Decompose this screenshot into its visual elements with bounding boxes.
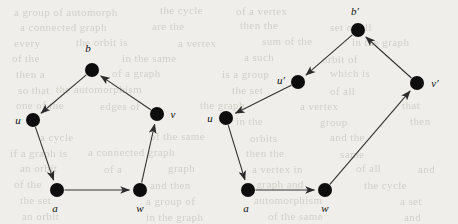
node-u — [26, 113, 40, 127]
node-bp — [351, 23, 365, 37]
node-label-v: v — [171, 108, 176, 120]
node-w — [318, 183, 332, 197]
edge-w-to-vp — [330, 91, 410, 184]
node-vp — [410, 76, 424, 90]
node-up — [291, 75, 305, 89]
figure-canvas: a group of automorphthe cycleof a vertex… — [0, 0, 458, 224]
edge-b-to-u — [41, 75, 86, 113]
node-label-w: w — [136, 202, 143, 214]
edge-up-to-u — [235, 85, 291, 113]
node-u — [219, 111, 233, 125]
edge-bp-to-up — [306, 35, 352, 75]
node-label-a: a — [52, 202, 58, 214]
node-label-bp: b′ — [351, 5, 359, 17]
node-v — [150, 107, 164, 121]
node-b — [85, 63, 99, 77]
node-label-w: w — [321, 202, 328, 214]
node-label-u: u — [15, 114, 21, 126]
node-label-b: b — [85, 42, 91, 54]
node-label-a: a — [243, 202, 249, 214]
edge-u-to-a — [228, 125, 245, 180]
node-label-u: u — [207, 112, 213, 124]
node-w — [133, 183, 147, 197]
node-label-vp: v′ — [431, 77, 438, 89]
node-label-up: u′ — [277, 74, 285, 86]
edge-vp-to-bp — [366, 37, 412, 78]
graph-drawing — [0, 0, 458, 224]
edge-v-to-b — [101, 76, 151, 110]
edge-u-to-a — [35, 127, 53, 180]
node-a — [241, 183, 255, 197]
node-a — [50, 183, 64, 197]
edge-w-to-v — [142, 124, 155, 182]
